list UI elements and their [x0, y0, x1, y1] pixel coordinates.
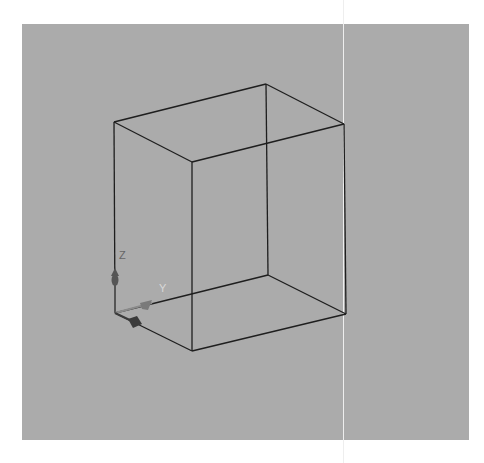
- edge: [192, 314, 346, 351]
- axis-gizmo[interactable]: [111, 268, 152, 328]
- edge: [114, 122, 192, 162]
- edge: [192, 124, 344, 162]
- edge: [344, 124, 346, 314]
- z-axis-arrowhead-icon: [111, 268, 119, 276]
- x-axis-arrow-icon: [128, 316, 142, 328]
- cube-wireframe: [114, 84, 346, 351]
- wireframe-canvas: [0, 0, 484, 463]
- edge: [266, 84, 268, 275]
- edge: [266, 84, 344, 124]
- y-axis-arrow-icon: [140, 300, 152, 310]
- z-axis-label: Z: [119, 249, 126, 261]
- edge: [114, 84, 266, 122]
- y-axis-label: Y: [159, 282, 166, 294]
- edge: [268, 275, 346, 314]
